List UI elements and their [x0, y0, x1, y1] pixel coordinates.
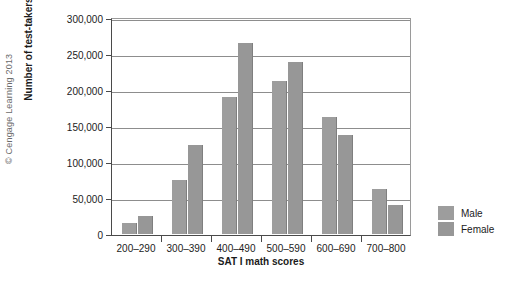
x-axis-tick-label: 600–690: [317, 243, 356, 254]
legend-item-male: Male: [438, 205, 518, 221]
x-axis-tick: [211, 236, 212, 242]
x-axis-title: SAT I math scores: [111, 256, 411, 267]
chart-figure: © Cengage Learning 2013 Number of test-t…: [0, 0, 522, 285]
y-axis-tick: [106, 19, 111, 20]
plot-overlay: 050,000100,000150,000200,000250,000300,0…: [111, 18, 411, 236]
y-axis-title: Number of test-takers: [22, 0, 36, 134]
x-axis-tick-label: 300–390: [167, 243, 206, 254]
y-axis-tick-label: 0: [97, 230, 103, 241]
chart-legend: MaleFemale: [438, 205, 518, 237]
y-axis-tick: [106, 127, 111, 128]
x-axis-tick-label: 700–800: [367, 243, 406, 254]
plot-wrapper: 050,000100,000150,000200,000250,000300,0…: [111, 18, 411, 236]
legend-swatch-male: [438, 206, 454, 220]
x-axis-tick: [311, 236, 312, 242]
x-axis-tick-label: 400–490: [217, 243, 256, 254]
y-axis-tick-label: 100,000: [67, 158, 103, 169]
y-axis-tick: [106, 199, 111, 200]
y-axis-tick-label: 250,000: [67, 50, 103, 61]
y-axis-tick: [106, 55, 111, 56]
legend-swatch-female: [438, 222, 454, 236]
legend-label-female: Female: [461, 224, 494, 235]
y-axis-tick: [106, 91, 111, 92]
y-axis-tick: [106, 235, 111, 236]
x-axis-tick: [361, 236, 362, 242]
x-axis-tick: [161, 236, 162, 242]
x-axis-tick: [261, 236, 262, 242]
y-axis-tick-label: 200,000: [67, 86, 103, 97]
legend-label-male: Male: [461, 208, 483, 219]
copyright-notice: © Cengage Learning 2013: [2, 34, 16, 164]
x-axis-tick-label: 200–290: [117, 243, 156, 254]
x-axis-tick-label: 500–590: [267, 243, 306, 254]
y-axis-tick-label: 150,000: [67, 122, 103, 133]
y-axis-tick-label: 50,000: [72, 194, 103, 205]
y-axis-tick-label: 300,000: [67, 14, 103, 25]
legend-item-female: Female: [438, 221, 518, 237]
y-axis-tick: [106, 163, 111, 164]
